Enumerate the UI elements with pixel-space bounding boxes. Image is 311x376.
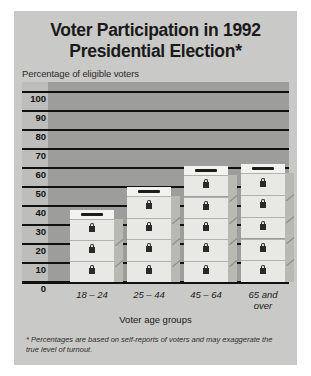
ballot-box-top	[184, 166, 228, 175]
plot-area: 1009080706050403020100	[22, 82, 289, 284]
ballot-box	[127, 261, 171, 283]
y-axis-tick-label: 70	[22, 151, 46, 161]
x-axis-title: Voter age groups	[22, 314, 289, 325]
bar	[70, 210, 114, 282]
padlock-icon	[146, 225, 152, 231]
padlock-icon	[260, 268, 266, 274]
padlock-icon	[203, 268, 209, 274]
padlock-icon	[260, 224, 266, 230]
y-axis-tick-label: 90	[22, 113, 46, 123]
padlock-icon	[203, 182, 209, 188]
ballot-box	[241, 260, 285, 282]
padlock-icon	[260, 246, 266, 252]
bar-side-face	[114, 219, 123, 282]
ballot-box	[184, 175, 228, 196]
y-axis-tick-label: 60	[22, 170, 46, 180]
gridline	[22, 148, 289, 150]
padlock-icon	[260, 181, 266, 187]
padlock-icon	[89, 268, 95, 274]
ballot-box	[241, 195, 285, 217]
bar	[127, 187, 171, 282]
bar	[241, 164, 285, 282]
x-axis-tick-label: 65 andover	[227, 289, 299, 311]
padlock-icon	[203, 246, 209, 252]
ballot-box	[241, 173, 285, 195]
gridline	[22, 110, 289, 112]
y-axis-tick-label: 40	[22, 208, 46, 218]
y-axis-tick-label: 20	[22, 246, 46, 256]
y-axis-tick-label: 30	[22, 227, 46, 237]
chart-subtitle: Percentage of eligible voters	[22, 68, 139, 79]
ballot-box	[127, 218, 171, 240]
padlock-icon	[260, 202, 266, 208]
y-axis-tick-label: 80	[22, 132, 46, 142]
ballot-box	[184, 239, 228, 260]
padlock-icon	[89, 247, 95, 253]
padlock-icon	[146, 203, 152, 209]
y-axis-tick-label: 100	[22, 94, 46, 104]
ballot-box	[184, 197, 228, 218]
x-axis-tick-line: over	[227, 300, 299, 311]
bar	[184, 166, 228, 282]
ballot-box	[184, 218, 228, 239]
ballot-box	[184, 261, 228, 282]
padlock-icon	[89, 226, 95, 232]
padlock-icon	[146, 246, 152, 252]
ballot-box-top	[241, 164, 285, 173]
ballot-box-top	[70, 210, 114, 219]
ballot-box	[70, 240, 114, 261]
ballot-box	[127, 239, 171, 261]
ballot-box	[70, 261, 114, 282]
y-axis-tick-label: 0	[22, 284, 46, 294]
ballot-box	[70, 219, 114, 240]
axis-baseline	[22, 282, 289, 284]
padlock-icon	[146, 268, 152, 274]
title-line-2: Presidential Election*	[14, 41, 297, 62]
title-line-1: Voter Participation in 1992	[14, 20, 297, 41]
ballot-box	[127, 196, 171, 218]
padlock-icon	[203, 204, 209, 210]
footnote: * Percentages are based on self-reports …	[26, 335, 284, 355]
x-axis-tick-line: 65 and	[227, 289, 299, 300]
ballot-box	[241, 217, 285, 239]
y-axis-tick-label: 50	[22, 189, 46, 199]
ballot-box-top	[127, 187, 171, 196]
gridline	[22, 91, 289, 93]
padlock-icon	[203, 225, 209, 231]
y-axis-tick-label: 10	[22, 265, 46, 275]
ballot-box	[241, 239, 285, 261]
page-title: Voter Participation in 1992 Presidential…	[14, 20, 297, 62]
chart-poster: Voter Participation in 1992 Presidential…	[14, 11, 297, 365]
gridline	[22, 129, 289, 131]
